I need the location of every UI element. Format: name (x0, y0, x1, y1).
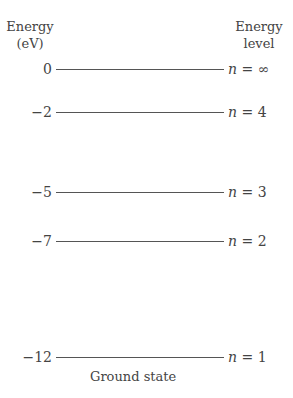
energy-header-line1: Energy (6, 18, 54, 35)
level-label: n = 4 (228, 102, 267, 122)
level-line (56, 112, 224, 113)
energy-value: −7 (31, 231, 52, 251)
n-value: = 1 (237, 349, 267, 365)
n-variable: n (228, 233, 237, 249)
energy-value: 0 (43, 59, 52, 79)
ground-state-label: Ground state (90, 368, 176, 385)
energy-level-n1: −12 n = 1 (0, 347, 293, 367)
level-header-line2: level (233, 35, 285, 52)
level-line (56, 192, 224, 193)
energy-unit-label: (eV) (6, 35, 54, 52)
level-line (56, 241, 224, 242)
energy-level-n-infinity: 0 n = ∞ (0, 59, 293, 79)
energy-level-n4: −2 n = 4 (0, 102, 293, 122)
n-value: = 4 (237, 104, 267, 120)
energy-value: −12 (22, 347, 52, 367)
energy-axis-header: Energy (eV) (6, 18, 54, 52)
level-line (56, 357, 224, 358)
level-label: n = 2 (228, 231, 267, 251)
n-value: = 3 (237, 184, 267, 200)
energy-value: −2 (31, 102, 52, 122)
level-header-line1: Energy (233, 18, 285, 35)
n-variable: n (228, 61, 237, 77)
level-label: n = ∞ (228, 59, 269, 79)
level-label: n = 1 (228, 347, 267, 367)
n-variable: n (228, 104, 237, 120)
n-value: = 2 (237, 233, 267, 249)
energy-value: −5 (31, 182, 52, 202)
energy-level-n2: −7 n = 2 (0, 231, 293, 251)
n-value: = ∞ (237, 61, 269, 77)
n-variable: n (228, 184, 237, 200)
energy-level-header: Energy level (233, 18, 285, 52)
energy-level-n3: −5 n = 3 (0, 182, 293, 202)
level-line (56, 69, 224, 70)
level-label: n = 3 (228, 182, 267, 202)
n-variable: n (228, 349, 237, 365)
